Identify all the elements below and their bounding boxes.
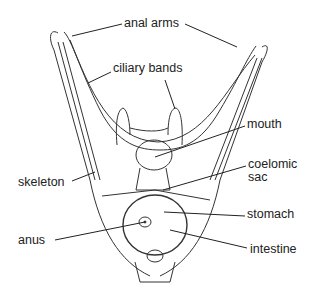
label-coelomic-sac-2: sac bbox=[248, 171, 267, 184]
label-ciliary-bands: ciliary bands bbox=[113, 62, 182, 75]
label-anus: anus bbox=[18, 234, 45, 247]
larva-diagram: anal arms ciliary bands mouth coelomic s… bbox=[0, 0, 313, 290]
label-intestine: intestine bbox=[250, 243, 297, 256]
label-skeleton: skeleton bbox=[18, 176, 65, 189]
label-anal-arms: anal arms bbox=[124, 17, 179, 30]
label-mouth: mouth bbox=[247, 118, 282, 131]
label-stomach: stomach bbox=[247, 208, 294, 221]
